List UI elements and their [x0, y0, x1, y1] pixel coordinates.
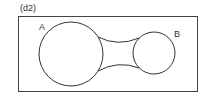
diagram-canvas: [0, 0, 210, 100]
neck-top-curve: [98, 37, 139, 42]
set-a-label: A: [39, 22, 45, 32]
circle-b: [133, 32, 175, 74]
neck-bottom-curve: [98, 65, 139, 71]
panel-label: (d2): [20, 3, 36, 13]
set-b-label: B: [174, 29, 180, 39]
universe-rectangle: [19, 17, 198, 92]
circle-a: [39, 22, 103, 86]
